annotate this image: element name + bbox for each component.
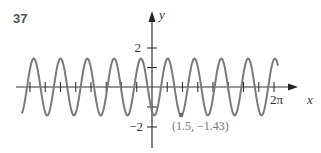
y-tick-label-2: 2	[135, 40, 142, 55]
x-tick-label-2pi: 2π	[270, 92, 284, 107]
y-axis-label: y	[157, 7, 165, 22]
y-tick-label-neg2: −2	[129, 119, 143, 134]
graph: 2 −2 y x 2π (1.5, −1.43)	[0, 0, 321, 153]
x-axis-label: x	[306, 92, 313, 107]
minimum-point	[179, 113, 183, 117]
x-axis-arrow-icon	[288, 84, 298, 91]
y-axis-arrow-icon	[149, 11, 156, 22]
min-point-annotation: (1.5, −1.43)	[172, 119, 229, 133]
